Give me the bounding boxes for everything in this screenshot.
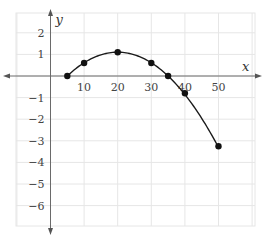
y-tick-label: 1 xyxy=(38,48,45,61)
x-tick-label: 20 xyxy=(111,81,125,94)
x-tick-label: 10 xyxy=(77,81,91,94)
y-axis-arrow-down-icon xyxy=(48,228,53,235)
x-tick-label: 50 xyxy=(212,81,226,94)
grid-lines xyxy=(16,13,255,226)
data-point xyxy=(64,73,70,79)
parabola-chart: 102030405021−1−2−3−4−5−6 x y xyxy=(0,0,268,240)
data-point xyxy=(215,143,221,149)
x-axis-arrow-left-icon xyxy=(3,74,10,79)
x-tick-label: 30 xyxy=(144,81,158,94)
data-point xyxy=(148,60,154,66)
y-axis-label: y xyxy=(55,12,64,27)
x-axis-label: x xyxy=(242,59,250,74)
y-tick-label: −6 xyxy=(28,200,44,213)
data-curve xyxy=(67,52,218,147)
data-point xyxy=(115,49,121,55)
data-points xyxy=(64,49,222,149)
y-tick-label: −1 xyxy=(28,92,44,105)
data-point xyxy=(81,60,87,66)
y-tick-label: −5 xyxy=(28,178,44,191)
y-tick-label: −2 xyxy=(28,113,44,126)
y-tick-label: 2 xyxy=(38,27,45,40)
data-point xyxy=(165,73,171,79)
data-point xyxy=(182,90,188,96)
x-axis-arrow-right-icon xyxy=(255,74,262,79)
y-tick-label: −4 xyxy=(28,156,44,169)
y-tick-label: −3 xyxy=(28,135,44,148)
